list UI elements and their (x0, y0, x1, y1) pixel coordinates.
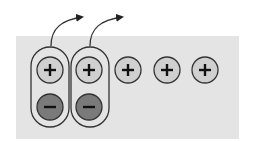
charge-diagram (0, 0, 255, 141)
positive-charge-icon (37, 57, 63, 83)
material-panel (16, 36, 239, 139)
positive-charge-icon (76, 57, 102, 83)
negative-charge-icon (76, 94, 102, 120)
negative-charge-icon (37, 94, 63, 120)
positive-charge-icon (154, 57, 180, 83)
positive-charge-icon (115, 57, 141, 83)
positive-charge-icon (192, 57, 218, 83)
